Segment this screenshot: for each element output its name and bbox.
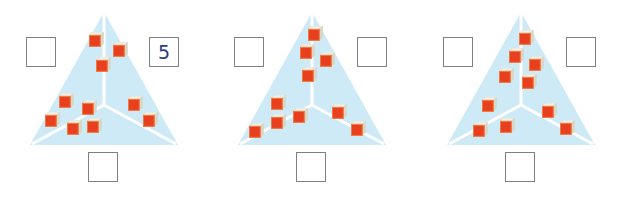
counting-cube [542,103,557,118]
counting-cube [509,48,524,63]
counting-cube [519,30,534,45]
counting-cube [89,32,104,47]
counting-cube [522,74,537,89]
counting-cube [308,26,323,41]
counting-cube [59,93,74,108]
counting-cube [249,123,264,138]
counting-cube [113,42,128,57]
counting-cube [529,56,544,71]
counting-cube [332,104,347,119]
counting-cube [271,95,286,110]
counting-cube [500,118,515,133]
answer-box-left[interactable] [26,37,56,67]
answer-box-bottom[interactable] [505,152,535,182]
answer-box-right[interactable]: 5 [149,37,179,67]
counting-cube [482,97,497,112]
counting-cube [320,52,335,67]
counting-cube [143,112,158,127]
answer-box-left[interactable] [234,37,264,67]
answer-box-right[interactable] [357,37,387,67]
answer-box-bottom[interactable] [88,152,118,182]
counting-cube [499,68,514,83]
answer-box-right[interactable] [566,37,596,67]
counting-cube [87,118,102,133]
triangle-puzzle: 5 [0,0,208,207]
counting-cube [82,100,97,115]
answer-box-bottom[interactable] [296,152,326,182]
number-bond-worksheet: 5 [0,0,625,207]
triangle-puzzle [417,0,625,207]
counting-cube [293,108,308,123]
counting-cube [560,120,575,135]
answer-box-left[interactable] [443,37,473,67]
counting-cube [302,67,317,82]
counting-cube [67,120,82,135]
counting-cube [45,112,60,127]
counting-cube [300,44,315,59]
triangle-puzzle [208,0,416,207]
counting-cube [473,122,488,137]
counting-cube [351,121,366,136]
counting-cube [271,114,286,129]
counting-cube [96,57,111,72]
counting-cube [128,96,143,111]
